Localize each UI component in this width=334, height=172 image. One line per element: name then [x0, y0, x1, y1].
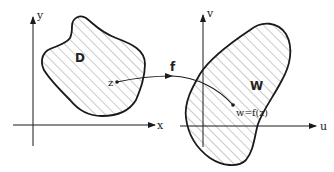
right-u-axis-label: u — [320, 120, 327, 133]
left-y-axis-label: y — [36, 9, 44, 22]
point-z-label: z — [108, 77, 113, 88]
left-x-axis-label: x — [157, 119, 164, 132]
right-plane: u v W w=f(z) — [180, 7, 327, 165]
region-D — [42, 16, 145, 116]
region-D-label: D — [75, 51, 85, 65]
point-w-label: w=f(z) — [236, 107, 268, 118]
point-w — [231, 103, 235, 107]
region-W-label: W — [250, 79, 263, 93]
region-W — [186, 24, 291, 165]
mapping-f-label: f — [170, 60, 176, 74]
right-v-axis-label: v — [206, 7, 214, 20]
complex-mapping-diagram: x y D z f u v W w=f(z) — [0, 0, 334, 172]
